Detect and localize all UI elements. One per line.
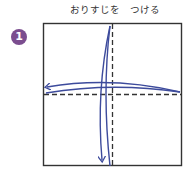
origami-diagram bbox=[0, 0, 193, 174]
